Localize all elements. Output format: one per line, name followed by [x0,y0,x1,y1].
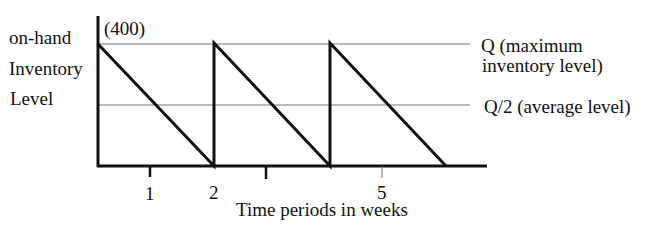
q-half-label: Q/2 (average level) [484,96,631,118]
q-max-label-line2: inventory level) [482,55,603,77]
x-tick-label-1: 1 [145,183,155,205]
x-axis-label: Time periods in weeks [236,199,408,221]
q-max-label-line1: Q (maximum [481,35,583,57]
y-axis-label-line1: on-hand [9,27,71,49]
max-value-annotation: (400) [104,18,145,40]
y-axis-label-line2: Inventory [9,58,83,80]
y-axis-label-line3: Level [10,88,53,110]
x-tick-label-2: 2 [209,182,219,204]
